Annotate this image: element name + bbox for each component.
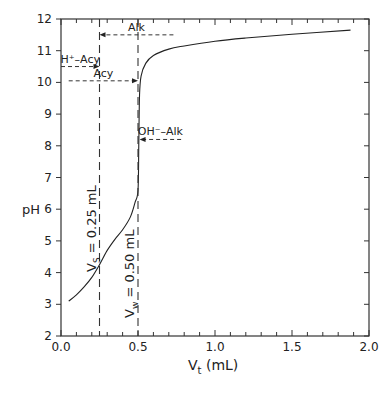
x-tick-label: 1.5 <box>282 340 301 354</box>
titration-chart: 0.00.51.01.52.023456789101112 VS = 0.25 … <box>0 0 389 393</box>
y-tick-label: 7 <box>44 171 52 185</box>
y-axis-label: pH <box>22 202 40 217</box>
svg-text:Vt (mL): Vt (mL) <box>188 357 238 376</box>
annotation-label: Alk <box>128 21 146 34</box>
arrow-head-icon <box>100 32 106 37</box>
y-tick-label: 10 <box>37 75 52 89</box>
y-tick-label: 2 <box>44 329 52 343</box>
y-tick-label: 4 <box>44 266 52 280</box>
annotation-label: H⁺–Acy <box>61 53 101 66</box>
y-tick-label: 3 <box>44 297 52 311</box>
x-tick-label: 0.5 <box>128 340 147 354</box>
x-axis-label: Vt (mL) <box>188 357 238 376</box>
y-tick-label: 5 <box>44 234 52 248</box>
annotation-label: Acy <box>93 67 113 80</box>
y-tick-label: 6 <box>44 202 52 216</box>
vertical-line-label: Vw = 0.50 mL <box>122 229 140 318</box>
y-tick-label: 11 <box>37 44 52 58</box>
annotation-label: OH⁻–Alk <box>138 125 184 138</box>
y-tick-label: 9 <box>44 107 52 121</box>
annotations: AlkH⁺–AcyAcyOH⁻–Alk <box>61 21 184 142</box>
y-tick-label: 8 <box>44 139 52 153</box>
x-tick-label: 2.0 <box>359 340 378 354</box>
x-tick-label: 1.0 <box>205 340 224 354</box>
vertical-line-label: VS = 0.25 mL <box>84 184 102 272</box>
x-tick-label: 0.0 <box>51 340 70 354</box>
arrow-head-icon <box>132 78 138 83</box>
y-tick-label: 12 <box>37 12 52 26</box>
